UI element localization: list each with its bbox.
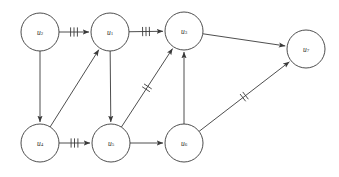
edge-tick-mark [144, 84, 152, 89]
graph-edge [129, 27, 163, 36]
graph-canvas: u2u1u3u7u4u5u6 [0, 0, 339, 177]
graph-node-u1[interactable]: u1 [91, 13, 129, 51]
graph-edge [110, 51, 111, 122]
graph-edge [59, 27, 89, 36]
graph-node-u7[interactable]: u7 [287, 30, 325, 68]
graph-edge [121, 49, 172, 127]
graph-node-u6[interactable]: u6 [165, 124, 203, 162]
graph-edge [199, 62, 289, 132]
graph-node-u3[interactable]: u3 [165, 12, 203, 50]
graph-edge [50, 50, 99, 127]
edge-line [199, 62, 289, 132]
graph-node-u2[interactable]: u2 [21, 13, 59, 51]
edge-line [110, 51, 111, 122]
edge-layer [40, 27, 289, 148]
edge-tick-mark [142, 87, 150, 92]
edge-line [203, 34, 285, 46]
graph-figure: u2u1u3u7u4u5u6 [0, 0, 339, 177]
graph-node-u5[interactable]: u5 [92, 124, 130, 162]
graph-node-u4[interactable]: u4 [21, 124, 59, 162]
graph-edge [203, 34, 285, 46]
node-layer: u2u1u3u7u4u5u6 [21, 12, 325, 162]
edge-line [50, 50, 99, 127]
edge-line [121, 49, 172, 127]
graph-edge [59, 138, 90, 147]
